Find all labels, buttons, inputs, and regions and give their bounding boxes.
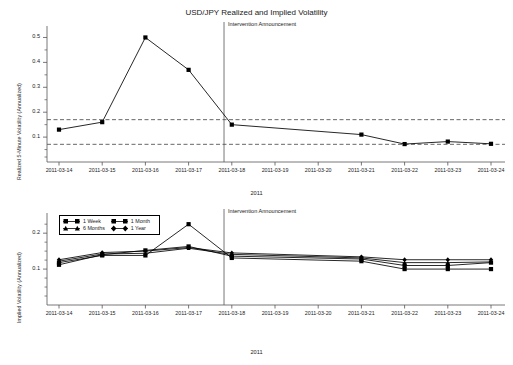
y-axis-tick-label: 0.1 bbox=[0, 133, 40, 139]
data-point-1-week bbox=[187, 222, 191, 226]
legend-label-1-week: 1 Week bbox=[82, 218, 111, 225]
bottom-panel: Implied Volatility (Annualized) Interven… bbox=[0, 205, 513, 330]
data-point-1-week bbox=[489, 267, 493, 271]
data-point-realized-5-minute-volatility bbox=[187, 68, 191, 72]
legend-label-1-year: 1 Year bbox=[130, 225, 156, 232]
data-point-1-year bbox=[446, 257, 450, 262]
y-axis-tick-label: 0.2 bbox=[0, 229, 40, 235]
x-axis-tick-label: 2011-03-24 bbox=[465, 167, 513, 173]
y-axis-tick-label: 0.2 bbox=[0, 108, 40, 114]
data-point-1-week bbox=[403, 267, 407, 271]
data-point-realized-5-minute-volatility bbox=[230, 123, 234, 127]
bottom-panel-legend: 1 Week 1 Month 6 Months 1 Year bbox=[59, 215, 160, 235]
data-point-realized-5-minute-volatility bbox=[143, 35, 147, 39]
figure-root: USD/JPY Realized and Implied Volatility … bbox=[0, 0, 513, 365]
data-point-realized-5-minute-volatility bbox=[57, 128, 61, 132]
data-point-1-week bbox=[446, 267, 450, 271]
legend-label-1-month: 1 Month bbox=[130, 218, 156, 225]
legend-marker-1-year bbox=[111, 225, 130, 232]
legend-marker-1-month bbox=[111, 218, 130, 225]
data-point-realized-5-minute-volatility bbox=[100, 120, 104, 124]
y-axis-tick-label: 0.5 bbox=[0, 33, 40, 39]
data-point-1-month bbox=[57, 263, 61, 267]
legend-marker-1-week bbox=[63, 218, 82, 225]
data-point-1-year bbox=[402, 257, 406, 262]
legend-label-6-months: 6 Months bbox=[82, 225, 111, 232]
figure-title: USD/JPY Realized and Implied Volatility bbox=[0, 8, 513, 17]
bottom-panel-x-axis-title: 2011 bbox=[0, 349, 513, 355]
bottom-panel-intervention-label: Intervention Announcement bbox=[228, 208, 296, 214]
y-axis-tick-label: 0.1 bbox=[0, 265, 40, 271]
top-panel-intervention-label: Intervention Announcement bbox=[228, 21, 296, 27]
data-point-realized-5-minute-volatility bbox=[446, 139, 450, 143]
series-line-realized-5-minute-volatility bbox=[59, 37, 491, 144]
y-axis-tick-label: 0.4 bbox=[0, 58, 40, 64]
y-axis-tick-label: 0.3 bbox=[0, 83, 40, 89]
x-axis-tick-label: 2011-03-24 bbox=[465, 310, 513, 316]
data-point-realized-5-minute-volatility bbox=[403, 142, 407, 146]
top-panel: Realized 5-Minute Volatility (Annualized… bbox=[0, 20, 513, 185]
data-point-realized-5-minute-volatility bbox=[359, 133, 363, 137]
top-panel-plot bbox=[0, 20, 513, 185]
top-panel-x-axis-title: 2011 bbox=[0, 190, 513, 196]
data-point-realized-5-minute-volatility bbox=[489, 142, 493, 146]
legend-marker-6-months bbox=[63, 225, 82, 232]
